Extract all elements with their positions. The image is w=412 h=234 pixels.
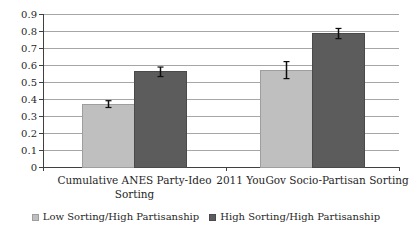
chart-legend: Low Sorting/High PartisanshipHigh Sortin… (0, 211, 412, 223)
bar-low-sorting-0 (83, 104, 135, 167)
legend-label: High Sorting/High Partisanship (220, 211, 380, 223)
legend-swatch-icon (32, 214, 39, 221)
legend-item-high-sorting: High Sorting/High Partisanship (209, 211, 380, 223)
category-label: 2011 YouGov Socio-Partisan Sorting (216, 174, 409, 186)
category-label: Cumulative ANES Party-Ideo (57, 174, 211, 186)
y-tick-label: 0.6 (21, 60, 37, 71)
y-tick-label: 0.2 (21, 128, 37, 139)
y-tick-label: 0.3 (21, 111, 37, 122)
bar-high-sorting-0 (135, 72, 187, 167)
y-tick-label: 0 (31, 162, 37, 173)
legend-item-low-sorting: Low Sorting/High Partisanship (32, 211, 199, 223)
chart-container: 00.10.20.30.40.50.60.70.80.9Cumulative A… (0, 0, 412, 234)
bar-chart: 00.10.20.30.40.50.60.70.80.9Cumulative A… (0, 0, 412, 234)
y-tick-label: 0.4 (21, 94, 37, 105)
y-tick-label: 0.5 (21, 77, 37, 88)
category-label: Sorting (115, 188, 155, 200)
y-tick-label: 0.8 (21, 26, 37, 37)
bar-low-sorting-1 (261, 70, 313, 167)
bar-high-sorting-1 (313, 34, 365, 167)
legend-swatch-icon (209, 214, 216, 221)
y-tick-label: 0.1 (21, 145, 37, 156)
y-tick-label: 0.7 (21, 43, 37, 54)
legend-label: Low Sorting/High Partisanship (43, 211, 199, 223)
y-tick-label: 0.9 (21, 9, 37, 20)
